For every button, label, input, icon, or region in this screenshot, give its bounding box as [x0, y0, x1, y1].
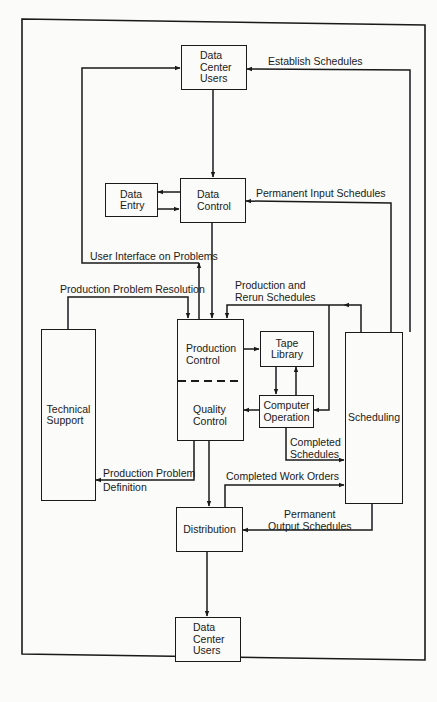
node-data-center-users-top: Data Center Users [181, 45, 247, 90]
node-label: Scheduling [348, 412, 400, 424]
edge-rerun-to-production-control [227, 305, 344, 318]
node-distribution: Distribution [176, 507, 243, 552]
label-completed-schedules: Completed Schedules [290, 437, 341, 460]
label-permanent-output-schedules: Permanent Output Schedules [268, 509, 351, 532]
label-permanent-input-schedules: Permanent Input Schedules [256, 188, 386, 200]
node-data-entry: Data Entry [105, 183, 158, 217]
label-production-problem-definition-1: Production Problem [103, 468, 195, 480]
node-label: Data Center Users [200, 50, 232, 85]
node-data-center-users-bottom: Data Center Users [175, 617, 241, 662]
node-label: Data Entry [120, 189, 145, 212]
node-label: Tape Library [271, 338, 303, 361]
label-completed-work-orders: Completed Work Orders [226, 471, 339, 483]
node-scheduling: Scheduling [345, 332, 403, 504]
node-data-control: Data Control [180, 178, 246, 223]
label-production-problem-definition-2: Definition [103, 482, 147, 494]
node-label: Distribution [183, 524, 236, 536]
node-label: Data Center Users [193, 622, 225, 657]
edge-permanent-input-schedules [246, 201, 391, 332]
label-user-interface-on-problems: User Interface on Problems [90, 251, 218, 263]
edge-production-and-rerun-schedules [344, 305, 361, 332]
edge-rerun-to-computer-operation [314, 305, 329, 410]
edge-user-interface-line [82, 68, 199, 263]
node-tape-library: Tape Library [260, 331, 314, 367]
node-computer-operation: Computer Operation [259, 395, 314, 428]
node-label: Computer Operation [263, 400, 309, 423]
node-production-control-label: Production Control [186, 343, 236, 366]
node-label: Technical Support [47, 404, 91, 427]
label-production-and-rerun-schedules: Production and Rerun Schedules [235, 280, 316, 303]
label-establish-schedules: Establish Schedules [268, 56, 363, 68]
node-technical-support: Technical Support [41, 329, 96, 501]
node-label: Data Control [197, 189, 231, 212]
label-production-problem-resolution: Production Problem Resolution [60, 284, 205, 296]
edge-completed-work-orders [225, 485, 344, 507]
edge-production-problem-resolution [68, 297, 188, 329]
node-quality-control-label: Quality Control [193, 404, 227, 427]
